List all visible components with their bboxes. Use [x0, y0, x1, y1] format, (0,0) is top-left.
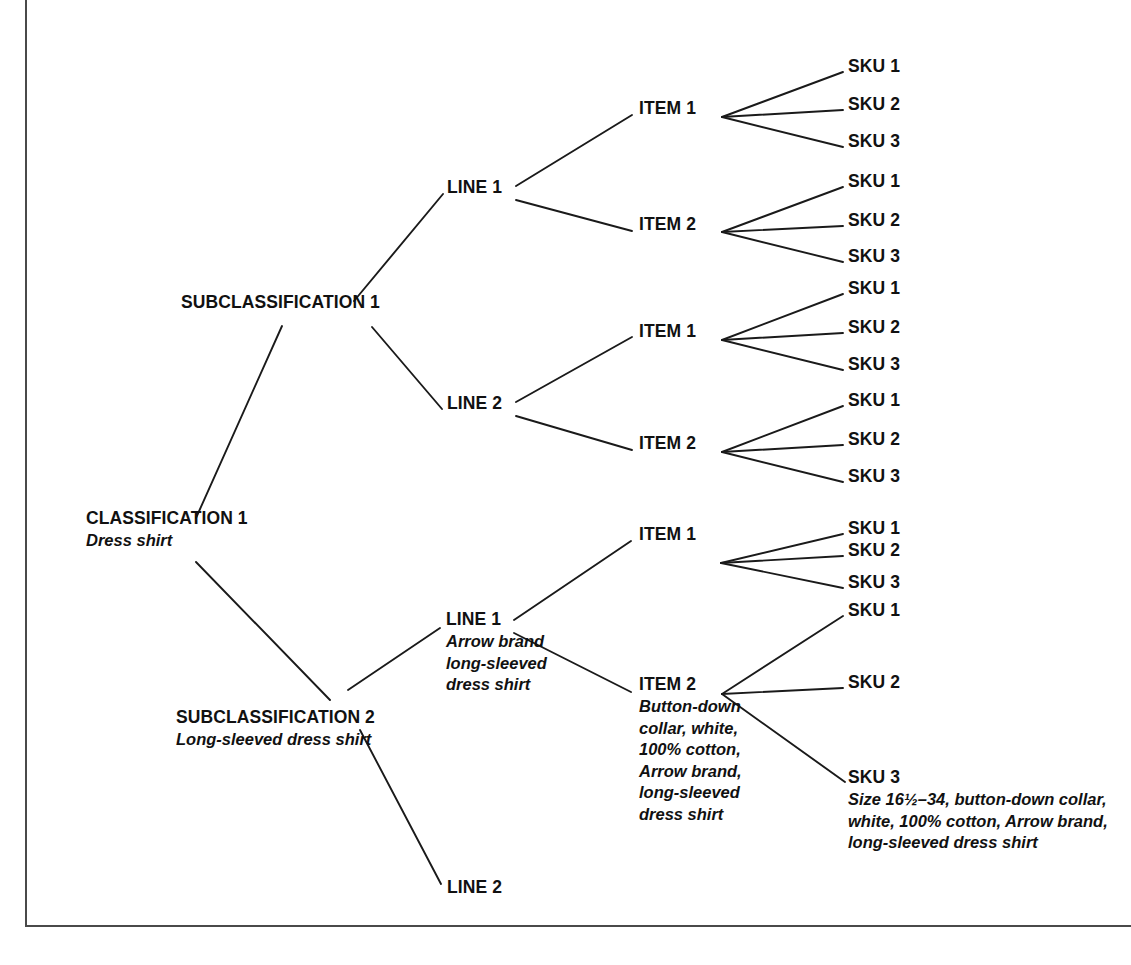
edge-classification1-subclassification1 [196, 326, 282, 518]
node-sku-a-2[interactable]: SKU 2 [848, 94, 900, 115]
node-title: SKU 3 [848, 354, 900, 375]
node-sku-b-1[interactable]: SKU 1 [848, 171, 900, 192]
node-subclassification-2[interactable]: SUBCLASSIFICATION 2 Long-sleeved dress s… [176, 707, 375, 751]
node-title: SKU 2 [848, 210, 900, 231]
edge-sub1-line1 [354, 194, 443, 301]
node-title: SKU 3 [848, 246, 900, 267]
node-sku-c-3[interactable]: SKU 3 [848, 354, 900, 375]
node-title: SKU 2 [848, 317, 900, 338]
node-sub2-line1-item-1[interactable]: ITEM 1 [639, 524, 696, 545]
node-title: SKU 1 [848, 600, 900, 621]
edge-sub1line2-item2 [516, 416, 632, 450]
node-title: ITEM 2 [639, 674, 771, 695]
edge-sub2-line2 [360, 730, 441, 884]
node-title: LINE 2 [447, 877, 502, 898]
edge-item-b-sku1 [722, 187, 843, 232]
edge-sub1line2-item1 [516, 337, 632, 402]
node-sku-c-2[interactable]: SKU 2 [848, 317, 900, 338]
node-description: Long-sleeved dress shirt [176, 729, 375, 751]
node-title: ITEM 2 [639, 214, 696, 235]
node-sub1-line1-item-1[interactable]: ITEM 1 [639, 98, 696, 119]
node-title: SUBCLASSIFICATION 2 [176, 707, 375, 728]
node-classification-1[interactable]: CLASSIFICATION 1 Dress shirt [86, 508, 248, 552]
node-sku-e-1[interactable]: SKU 1 [848, 518, 900, 539]
node-description: Arrow brand long-sleeved dress shirt [446, 631, 578, 696]
node-sku-c-1[interactable]: SKU 1 [848, 278, 900, 299]
node-title: SKU 3 [848, 131, 900, 152]
node-sku-f-2[interactable]: SKU 2 [848, 672, 900, 693]
node-title: SKU 2 [848, 540, 900, 561]
node-title: SKU 3 [848, 767, 1116, 788]
node-sku-b-3[interactable]: SKU 3 [848, 246, 900, 267]
node-sku-b-2[interactable]: SKU 2 [848, 210, 900, 231]
node-sku-e-2[interactable]: SKU 2 [848, 540, 900, 561]
node-sku-d-1[interactable]: SKU 1 [848, 390, 900, 411]
node-sku-a-3[interactable]: SKU 3 [848, 131, 900, 152]
node-title: SKU 1 [848, 518, 900, 539]
edge-item-d-sku3 [722, 452, 843, 482]
node-description: Dress shirt [86, 530, 248, 552]
node-title: CLASSIFICATION 1 [86, 508, 248, 529]
edge-item-a-sku3 [722, 117, 843, 147]
node-title: LINE 2 [447, 393, 502, 414]
node-description: Button-down collar, white, 100% cotton, … [639, 696, 771, 825]
node-title: SUBCLASSIFICATION 1 [181, 292, 380, 313]
node-sub1-line1-item-2[interactable]: ITEM 2 [639, 214, 696, 235]
node-sku-d-2[interactable]: SKU 2 [848, 429, 900, 450]
diagram-canvas: CLASSIFICATION 1 Dress shirt SUBCLASSIFI… [0, 0, 1131, 965]
edge-sub2-line1 [348, 628, 440, 690]
edge-item-b-sku2 [722, 226, 843, 232]
node-title: ITEM 1 [639, 524, 696, 545]
edge-sub1line1-item2 [516, 200, 632, 231]
node-title: SKU 1 [848, 390, 900, 411]
edge-item-b-sku3 [722, 232, 843, 262]
node-sub2-line-1[interactable]: LINE 1 Arrow brand long-sleeved dress sh… [446, 609, 578, 696]
node-title: LINE 1 [446, 609, 578, 630]
edge-sub1-line2 [372, 327, 442, 409]
node-title: SKU 1 [848, 278, 900, 299]
node-title: ITEM 1 [639, 321, 696, 342]
node-title: SKU 2 [848, 94, 900, 115]
node-title: SKU 1 [848, 171, 900, 192]
node-sub2-line1-item-2[interactable]: ITEM 2 Button-down collar, white, 100% c… [639, 674, 771, 825]
node-sku-d-3[interactable]: SKU 3 [848, 466, 900, 487]
edge-classification1-subclassification2 [196, 562, 330, 700]
node-title: ITEM 1 [639, 98, 696, 119]
node-sub1-line2-item-1[interactable]: ITEM 1 [639, 321, 696, 342]
edge-sub1line1-item1 [516, 115, 632, 186]
node-sub1-line-2[interactable]: LINE 2 [447, 393, 502, 414]
node-title: SKU 1 [848, 56, 900, 77]
edge-item-c-sku3 [722, 340, 843, 370]
node-title: SKU 2 [848, 672, 900, 693]
node-title: SKU 3 [848, 572, 900, 593]
node-sku-e-3[interactable]: SKU 3 [848, 572, 900, 593]
node-sub1-line-1[interactable]: LINE 1 [447, 177, 502, 198]
node-title: ITEM 2 [639, 433, 696, 454]
node-sku-f-3[interactable]: SKU 3 Size 16½–34, button-down collar, w… [848, 767, 1116, 854]
node-sku-f-1[interactable]: SKU 1 [848, 600, 900, 621]
node-subclassification-1[interactable]: SUBCLASSIFICATION 1 [181, 292, 380, 313]
node-title: SKU 3 [848, 466, 900, 487]
node-description: Size 16½–34, button-down collar, white, … [848, 789, 1116, 854]
node-sub1-line2-item-2[interactable]: ITEM 2 [639, 433, 696, 454]
node-title: SKU 2 [848, 429, 900, 450]
edge-item-e-sku3 [721, 563, 843, 588]
node-title: LINE 1 [447, 177, 502, 198]
node-sub2-line-2[interactable]: LINE 2 [447, 877, 502, 898]
node-sku-a-1[interactable]: SKU 1 [848, 56, 900, 77]
